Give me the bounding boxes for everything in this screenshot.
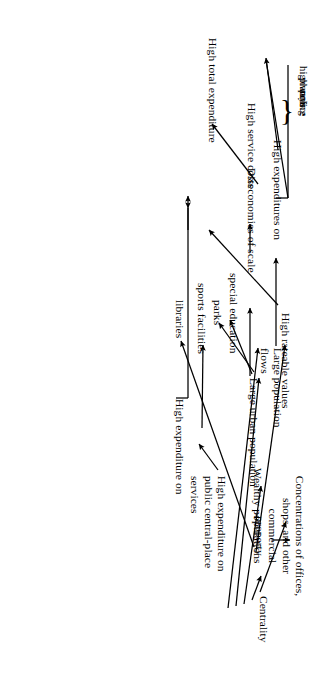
node-high-expenditure-on: High expenditure on	[173, 399, 186, 519]
node-high-service-costs: High service costs	[245, 103, 258, 229]
node-special-education: special education	[227, 273, 240, 385]
node-high-total-expenditure: High total expenditure	[206, 38, 219, 208]
node-libraries: libraries	[173, 300, 186, 370]
node-large-population-flows: Large population flows	[257, 348, 284, 494]
node-high-expenditures-on: High expenditures on	[271, 140, 284, 268]
edge-expenditures-total-arrow	[266, 58, 278, 150]
diagram-canvas: High total expenditure High rateable val…	[0, 0, 314, 676]
node-highways: highways	[297, 66, 310, 136]
edge-rateable-total	[209, 230, 278, 305]
node-public-central-place-services: High expenditure on public central-place…	[188, 476, 228, 616]
node-centrality: Centrality	[257, 596, 270, 666]
edge-centralplace-highexp	[199, 444, 218, 470]
curly-brace: }	[280, 95, 294, 125]
node-sports-facilities: sports facilities	[195, 283, 208, 379]
node-parks: parks	[211, 300, 224, 356]
